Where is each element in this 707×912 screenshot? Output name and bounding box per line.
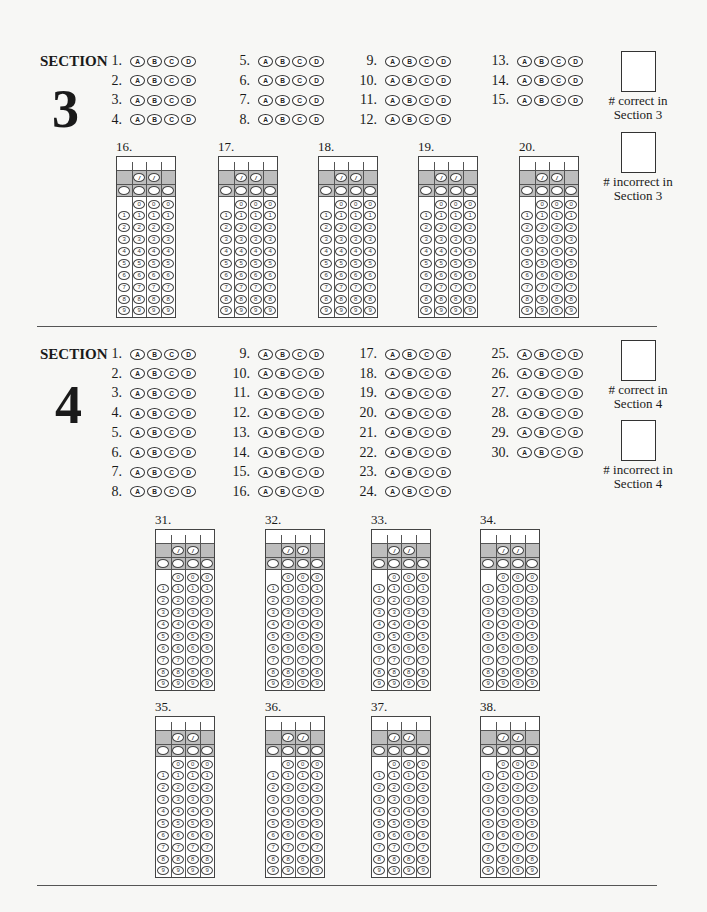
digit-bubble-2[interactable]: 2 <box>512 783 524 792</box>
answer-bubble-a[interactable]: A <box>385 368 400 379</box>
digit-bubble-5[interactable]: 5 <box>235 259 247 268</box>
answer-bubble-a[interactable]: A <box>130 95 145 106</box>
digit-bubble-1[interactable]: 1 <box>521 211 533 220</box>
digit-bubble-5[interactable]: 5 <box>282 819 294 828</box>
digit-bubble-8[interactable]: 8 <box>435 295 447 304</box>
answer-bubble-a[interactable]: A <box>258 95 273 106</box>
decimal-point-bubble[interactable] <box>536 186 548 195</box>
digit-bubble-1[interactable]: 1 <box>464 211 476 220</box>
digit-bubble-0[interactable]: 0 <box>201 760 213 769</box>
answer-bubble-c[interactable]: C <box>164 349 179 360</box>
digit-bubble-0[interactable]: 0 <box>250 200 262 209</box>
answer-bubble-d[interactable]: D <box>309 408 324 419</box>
digit-bubble-0[interactable]: 0 <box>172 573 184 582</box>
write-in-cell[interactable] <box>448 162 463 171</box>
answer-bubble-a[interactable]: A <box>385 388 400 399</box>
digit-bubble-9[interactable]: 9 <box>403 866 415 875</box>
digit-bubble-4[interactable]: 4 <box>403 620 415 629</box>
answer-bubble-b[interactable]: B <box>275 368 290 379</box>
digit-bubble-8[interactable]: 8 <box>526 855 538 864</box>
digit-bubble-3[interactable]: 3 <box>235 235 247 244</box>
digit-bubble-3[interactable]: 3 <box>157 608 169 617</box>
digit-bubble-1[interactable]: 1 <box>187 584 199 593</box>
write-in-cell[interactable] <box>401 535 416 544</box>
fraction-slash-bubble[interactable]: / <box>512 546 524 555</box>
digit-bubble-2[interactable]: 2 <box>157 596 169 605</box>
digit-bubble-4[interactable]: 4 <box>157 807 169 816</box>
digit-bubble-8[interactable]: 8 <box>320 295 332 304</box>
digit-bubble-9[interactable]: 9 <box>297 866 309 875</box>
digit-bubble-4[interactable]: 4 <box>521 247 533 256</box>
digit-bubble-3[interactable]: 3 <box>267 795 279 804</box>
answer-bubble-b[interactable]: B <box>534 447 549 458</box>
answer-bubble-d[interactable]: D <box>309 427 324 438</box>
digit-bubble-7[interactable]: 7 <box>172 656 184 665</box>
digit-bubble-0[interactable]: 0 <box>172 760 184 769</box>
answer-bubble-b[interactable]: B <box>402 447 417 458</box>
digit-bubble-3[interactable]: 3 <box>220 235 232 244</box>
digit-bubble-6[interactable]: 6 <box>403 644 415 653</box>
digit-bubble-7[interactable]: 7 <box>435 283 447 292</box>
answer-bubble-c[interactable]: C <box>551 447 566 458</box>
digit-bubble-5[interactable]: 5 <box>350 259 362 268</box>
digit-bubble-3[interactable]: 3 <box>282 608 294 617</box>
digit-bubble-2[interactable]: 2 <box>364 223 376 232</box>
digit-bubble-9[interactable]: 9 <box>157 679 169 688</box>
digit-bubble-6[interactable]: 6 <box>235 271 247 280</box>
digit-bubble-7[interactable]: 7 <box>403 843 415 852</box>
digit-bubble-4[interactable]: 4 <box>311 620 323 629</box>
digit-bubble-4[interactable]: 4 <box>267 807 279 816</box>
digit-bubble-9[interactable]: 9 <box>417 866 429 875</box>
digit-bubble-3[interactable]: 3 <box>250 235 262 244</box>
digit-bubble-5[interactable]: 5 <box>267 632 279 641</box>
digit-bubble-4[interactable]: 4 <box>264 247 276 256</box>
digit-bubble-3[interactable]: 3 <box>373 608 385 617</box>
digit-bubble-6[interactable]: 6 <box>297 831 309 840</box>
digit-bubble-8[interactable]: 8 <box>187 668 199 677</box>
digit-bubble-3[interactable]: 3 <box>187 795 199 804</box>
digit-bubble-1[interactable]: 1 <box>157 771 169 780</box>
write-in-cell[interactable] <box>525 722 540 731</box>
digit-bubble-5[interactable]: 5 <box>512 819 524 828</box>
digit-bubble-4[interactable]: 4 <box>297 807 309 816</box>
digit-bubble-0[interactable]: 0 <box>536 200 548 209</box>
decimal-point-bubble[interactable] <box>220 186 232 195</box>
digit-bubble-4[interactable]: 4 <box>350 247 362 256</box>
fraction-slash-bubble[interactable]: / <box>235 173 247 182</box>
digit-bubble-3[interactable]: 3 <box>521 235 533 244</box>
answer-bubble-b[interactable]: B <box>275 408 290 419</box>
digit-bubble-4[interactable]: 4 <box>148 247 160 256</box>
digit-bubble-0[interactable]: 0 <box>512 573 524 582</box>
digit-bubble-5[interactable]: 5 <box>403 632 415 641</box>
digit-bubble-6[interactable]: 6 <box>417 831 429 840</box>
digit-bubble-5[interactable]: 5 <box>162 259 174 268</box>
digit-bubble-4[interactable]: 4 <box>464 247 476 256</box>
decimal-point-bubble[interactable] <box>172 559 184 568</box>
digit-bubble-9[interactable]: 9 <box>320 306 332 315</box>
digit-bubble-5[interactable]: 5 <box>201 819 213 828</box>
digit-bubble-1[interactable]: 1 <box>282 584 294 593</box>
digit-bubble-6[interactable]: 6 <box>220 271 232 280</box>
digit-bubble-0[interactable]: 0 <box>497 573 509 582</box>
digit-bubble-9[interactable]: 9 <box>403 679 415 688</box>
digit-bubble-9[interactable]: 9 <box>388 679 400 688</box>
fraction-slash-bubble[interactable]: / <box>172 546 184 555</box>
digit-bubble-1[interactable]: 1 <box>512 771 524 780</box>
digit-bubble-4[interactable]: 4 <box>172 620 184 629</box>
decimal-point-bubble[interactable] <box>282 559 294 568</box>
digit-bubble-7[interactable]: 7 <box>420 283 432 292</box>
digit-bubble-1[interactable]: 1 <box>526 771 538 780</box>
digit-bubble-3[interactable]: 3 <box>364 235 376 244</box>
decimal-point-bubble[interactable] <box>420 186 432 195</box>
digit-bubble-9[interactable]: 9 <box>497 866 509 875</box>
answer-bubble-c[interactable]: C <box>164 467 179 478</box>
digit-bubble-2[interactable]: 2 <box>133 223 145 232</box>
digit-bubble-8[interactable]: 8 <box>450 295 462 304</box>
digit-bubble-4[interactable]: 4 <box>364 247 376 256</box>
digit-bubble-7[interactable]: 7 <box>512 843 524 852</box>
digit-bubble-9[interactable]: 9 <box>417 679 429 688</box>
digit-bubble-7[interactable]: 7 <box>297 656 309 665</box>
answer-bubble-c[interactable]: C <box>292 56 307 67</box>
digit-bubble-5[interactable]: 5 <box>250 259 262 268</box>
digit-bubble-6[interactable]: 6 <box>267 644 279 653</box>
